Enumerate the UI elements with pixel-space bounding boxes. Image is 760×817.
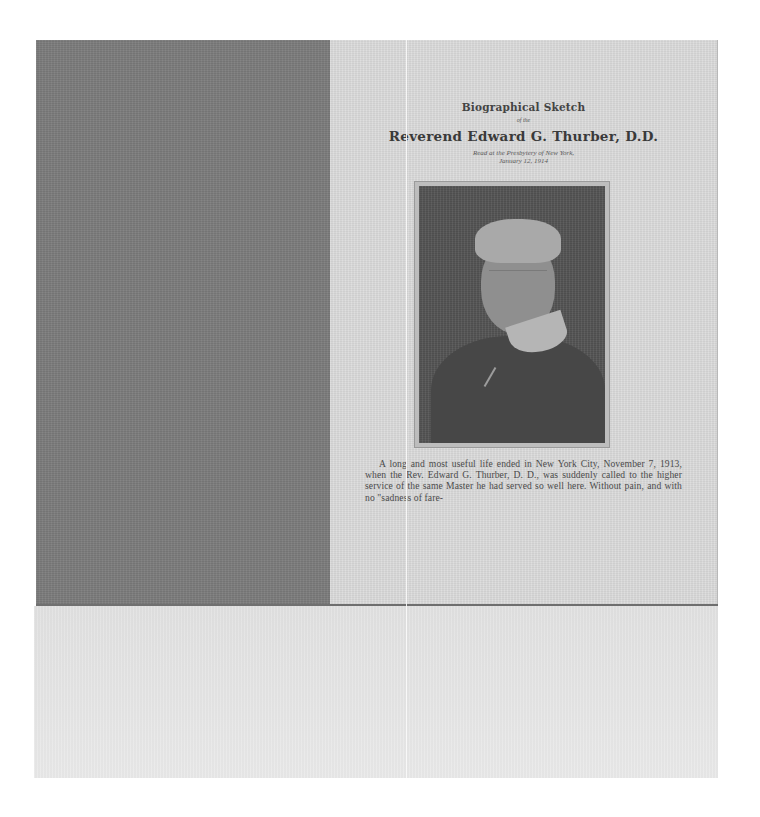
scan-artifact-line <box>406 40 407 778</box>
portrait-frame <box>414 181 610 448</box>
subtitle: Read at the Presbytery of New York, Janu… <box>330 149 717 165</box>
portrait-hair <box>475 219 561 263</box>
lower-blank-area <box>34 606 718 778</box>
heading-of-the: of the <box>330 117 717 123</box>
heading-biographical-sketch: Biographical Sketch <box>330 101 717 113</box>
subtitle-line-1: Read at the Presbytery of New York, <box>330 149 717 157</box>
subtitle-line-2: January 12, 1914 <box>330 157 717 165</box>
portrait-body <box>431 336 605 443</box>
left-cover-panel <box>36 40 330 605</box>
scanned-document: Biographical Sketch of the Reverend Edwa… <box>34 40 717 778</box>
body-paragraph: A long and most useful life ended in New… <box>365 458 682 503</box>
heading-subject-name: Reverend Edward G. Thurber, D.D. <box>330 128 717 144</box>
portrait-photo <box>419 186 605 443</box>
portrait-glasses <box>489 270 547 279</box>
page-content: Biographical Sketch of the Reverend Edwa… <box>330 40 717 605</box>
